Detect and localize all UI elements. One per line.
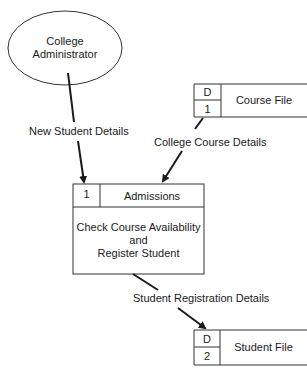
store-student-file-number: 2 <box>194 350 220 363</box>
external-entity-line1: College <box>8 35 122 48</box>
flow-arrow-student-registration-details <box>178 308 205 328</box>
store-student-file-name: Student File <box>220 341 307 354</box>
store-course-file-number: 1 <box>194 103 221 116</box>
store-student-file-prefix: D <box>194 333 220 346</box>
flow-arrow-college-course-details <box>163 151 182 181</box>
flow-label-new-student-details: New Student Details <box>28 125 130 138</box>
process-desc-line3: Register Student <box>73 247 204 260</box>
process-description: Check Course Availability and Register S… <box>73 221 204 260</box>
store-course-file-name: Course File <box>221 94 307 107</box>
flow-label-college-course-details: College Course Details <box>153 136 268 149</box>
external-entity-line2: Administrator <box>8 48 122 61</box>
process-id: 1 <box>73 188 100 201</box>
process-title: Admissions <box>100 190 204 203</box>
store-course-file-prefix: D <box>194 86 221 99</box>
flow-line-student-registration-details <box>133 274 158 290</box>
process-desc-line2: and <box>73 234 204 247</box>
process-desc-line1: Check Course Availability <box>73 221 204 234</box>
external-entity-label: College Administrator <box>8 35 122 61</box>
flow-arrow-new-student-details <box>78 141 84 182</box>
flow-line-college-course-details <box>195 118 203 129</box>
flow-label-student-registration-details: Student Registration Details <box>132 292 270 305</box>
